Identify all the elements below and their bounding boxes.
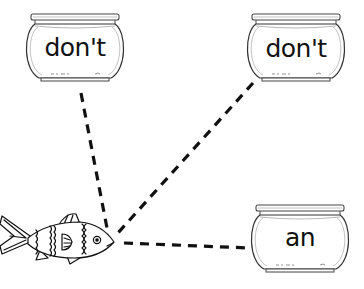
connector-to-bottom-right bbox=[124, 243, 250, 248]
bowl-top-left-word: don't bbox=[30, 35, 120, 60]
bowl-top-right-word: don't bbox=[251, 36, 341, 61]
connector-lines bbox=[81, 83, 253, 248]
bowl-bottom-right-word: an bbox=[255, 225, 345, 250]
fish-icon bbox=[0, 214, 114, 264]
connector-to-top-left bbox=[81, 93, 107, 228]
worksheet-canvas: don't don't an bbox=[0, 0, 364, 289]
connector-to-top-right bbox=[117, 83, 253, 234]
